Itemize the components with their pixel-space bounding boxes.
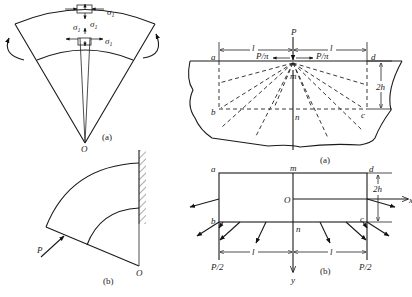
reaction-left-label: P/2: [210, 262, 224, 272]
corner-b: b: [211, 107, 216, 117]
traction-c-out: [367, 222, 389, 236]
sigma-label-1: σ1: [107, 7, 114, 18]
traction-3: [320, 222, 330, 243]
load-P-label: P: [290, 27, 297, 37]
origin-label-O: O: [284, 195, 291, 205]
figure-half-plane: P P/π P/π l l 2h a d b c m n (a): [189, 27, 402, 165]
force-P-arrow: [41, 236, 64, 257]
figure-rect-strip: l l 2h a d b c m n O y x P/2 P/2 (b): [190, 163, 412, 285]
label-n-b: n: [296, 224, 301, 234]
traction-4: [346, 222, 366, 240]
sigma-label-4: σ1: [105, 36, 112, 47]
P-over-pi-right-label: P/π: [315, 51, 329, 61]
corner-c: c: [361, 110, 365, 120]
inner-arc: [37, 50, 133, 60]
right-radial-edge: [85, 24, 155, 143]
center-radial-line-left: [80, 38, 85, 143]
axis-x-label: x: [408, 195, 412, 205]
dim-2h-b-label: 2h: [373, 184, 383, 194]
sigma-label-3: σ1: [90, 19, 97, 30]
figure-quarter-ring: P O (b): [36, 150, 146, 286]
center-radial-line-right: [85, 38, 90, 143]
origin-label-b: O: [136, 268, 143, 278]
caption-left-a: (a): [102, 132, 112, 142]
moment-arrow-right-icon: [143, 34, 159, 58]
label-m: m: [290, 71, 297, 81]
traction-left: [190, 199, 219, 207]
corner-d-b: d: [369, 164, 374, 174]
sigma-label-2: σ1: [73, 22, 80, 33]
left-radial-edge: [15, 24, 85, 143]
origin-label-a: O: [81, 144, 88, 154]
figure-curved-beam-bending: σ1 σ1 σ1 σ1 (a) O: [7, 4, 158, 154]
force-P-label: P: [36, 245, 43, 255]
dim-2h-label: 2h: [376, 82, 386, 92]
corner-a: a: [211, 52, 216, 62]
label-n: n: [295, 112, 300, 122]
corner-b-b: b: [211, 216, 216, 226]
corner-c-b: c: [360, 214, 364, 224]
traction-b-out: [197, 222, 219, 236]
outer-arc-b: [46, 163, 139, 227]
corner-d: d: [371, 52, 376, 62]
caption-right-b: (b): [320, 266, 331, 276]
label-m-b: m: [290, 163, 297, 173]
moment-arrow-left-icon: [7, 38, 24, 60]
half-plane-boundary-left: [189, 61, 268, 146]
corner-a-b: a: [211, 164, 216, 174]
traction-b-in: [219, 222, 223, 228]
caption-right-a: (a): [320, 155, 330, 165]
axis-y-label: y: [290, 275, 295, 285]
fixed-wall-hatch: [139, 150, 146, 224]
inner-arc-b: [87, 208, 139, 245]
caption-left-b: (b): [103, 276, 114, 286]
traction-right: [367, 199, 395, 207]
traction-2: [256, 222, 266, 243]
reaction-right-label: P/2: [358, 262, 372, 272]
traction-1: [220, 222, 240, 240]
